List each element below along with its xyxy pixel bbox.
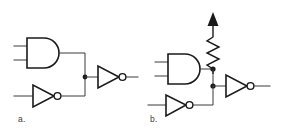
caption-a: a. [18, 114, 26, 124]
and-gate-body [27, 38, 59, 68]
input-inverter-bubble [186, 102, 193, 109]
supply-arrow-icon [208, 12, 219, 26]
circuit-canvas: a. [0, 0, 284, 133]
input-inverter-body [166, 95, 186, 116]
input-inverter-output-wire [61, 77, 85, 96]
output-inverter-body [226, 75, 247, 97]
and-gate-output-wire [59, 53, 85, 77]
input-inverter-body [33, 85, 54, 107]
input-inverter-output-wire [193, 86, 213, 105]
output-inverter-body [98, 66, 119, 88]
output-inverter-bubble [247, 83, 254, 90]
caption-b: b. [150, 114, 158, 124]
circuit-b: b. [148, 12, 270, 124]
and-gate-body [168, 54, 200, 84]
input-inverter-bubble [54, 93, 61, 100]
logic-circuit-figure: a. [0, 0, 284, 133]
circuit-a: a. [14, 38, 138, 124]
output-inverter-bubble [119, 74, 126, 81]
